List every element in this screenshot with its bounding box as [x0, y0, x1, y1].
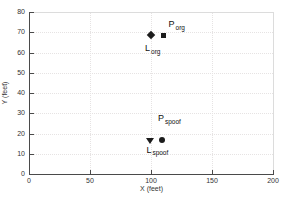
- y-tick-label: 70: [4, 28, 25, 35]
- y-tick: [30, 154, 34, 155]
- x-tick: [212, 170, 213, 174]
- y-tick-label: 30: [4, 109, 25, 116]
- point-label-main-p-spoof: P: [158, 113, 164, 123]
- x-tick-label: 0: [17, 177, 41, 184]
- y-tick: [30, 32, 34, 33]
- point-label-main-l-spoof: L: [146, 145, 151, 155]
- y-tick: [30, 12, 34, 13]
- y-tick-label: 20: [4, 130, 25, 137]
- point-label-sub-p-org: org: [176, 24, 185, 31]
- scatter-figure: X (feet) Y (feet) 0501001502000102030405…: [0, 0, 286, 200]
- y-tick-label: 60: [4, 49, 25, 56]
- x-tick-label: 50: [78, 177, 102, 184]
- y-tick: [30, 93, 34, 94]
- y-tick: [30, 113, 34, 114]
- point-label-p-org: Porg: [169, 20, 185, 29]
- plot-border-right: [273, 12, 274, 174]
- y-tick-label: 10: [4, 150, 25, 157]
- plot-border-top: [29, 12, 273, 13]
- x-tick-label: 100: [139, 177, 163, 184]
- axis-spine-bottom: [29, 174, 274, 175]
- y-tick-label: 0: [4, 170, 25, 177]
- marker-p-org: [161, 33, 166, 38]
- gridline-horizontal: [29, 113, 273, 114]
- point-label-main-p-org: P: [169, 19, 175, 29]
- point-label-l-org: Lorg: [145, 44, 160, 53]
- x-tick-label: 150: [200, 177, 224, 184]
- x-tick: [273, 170, 274, 174]
- point-label-sub-l-spoof: spoof: [152, 149, 168, 156]
- x-tick: [151, 170, 152, 174]
- x-tick-label: 200: [261, 177, 285, 184]
- y-tick-label: 80: [4, 8, 25, 15]
- point-label-p-spoof: Pspoof: [158, 114, 181, 123]
- y-tick: [30, 174, 34, 175]
- y-tick: [30, 134, 34, 135]
- point-label-l-spoof: Lspoof: [146, 146, 168, 155]
- x-axis-label: X (feet): [29, 185, 274, 192]
- y-tick-label: 50: [4, 69, 25, 76]
- marker-l-spoof: [146, 138, 154, 144]
- point-label-sub-l-org: org: [151, 48, 160, 55]
- y-tick-label: 40: [4, 89, 25, 96]
- y-tick: [30, 53, 34, 54]
- gridline-horizontal: [29, 93, 273, 94]
- gridline-horizontal: [29, 134, 273, 135]
- point-label-main-l-org: L: [145, 43, 150, 53]
- point-label-sub-p-spoof: spoof: [165, 118, 181, 125]
- gridline-horizontal: [29, 73, 273, 74]
- x-tick: [90, 170, 91, 174]
- y-tick: [30, 73, 34, 74]
